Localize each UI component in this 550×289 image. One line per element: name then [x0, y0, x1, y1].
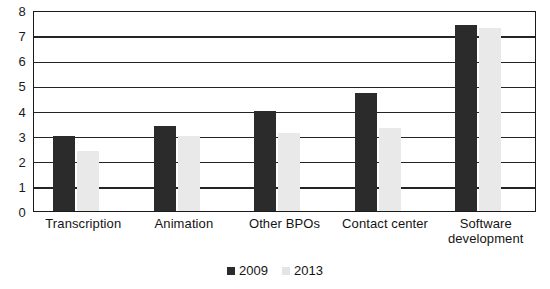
bar-2013	[178, 136, 200, 211]
bars-layer	[34, 12, 535, 211]
dark-square-marker-icon	[227, 267, 235, 275]
y-axis-tick-label: 8	[19, 5, 26, 18]
y-axis-tick-label: 0	[19, 206, 26, 219]
x-axis-tick-label: Animation	[134, 216, 235, 231]
y-axis: 012345678	[0, 0, 30, 222]
y-axis-tick-label: 2	[19, 155, 26, 168]
plot-area	[33, 11, 536, 212]
chart-legend: 20092013	[0, 264, 550, 278]
bar-2009	[154, 126, 176, 211]
x-axis-tick-label: Softwaredevelopment	[435, 216, 536, 246]
x-axis-tick-label-line: Animation	[134, 216, 235, 231]
x-axis-tick-label-line: Contact center	[335, 216, 436, 231]
bar-group	[135, 12, 236, 211]
x-axis-tick-label-line: Transcription	[33, 216, 134, 231]
y-axis-tick-label: 7	[19, 30, 26, 43]
bar-2013	[479, 28, 501, 211]
x-axis-tick-label: Contact center	[335, 216, 436, 231]
legend-label: 2013	[294, 264, 323, 278]
bar-2009	[355, 93, 377, 211]
y-axis-tick-label: 5	[19, 80, 26, 93]
x-axis-tick-label: Transcription	[33, 216, 134, 231]
bar-2013	[379, 128, 401, 211]
legend-item-2009[interactable]: 2009	[227, 264, 268, 278]
light-square-marker-icon	[282, 267, 290, 275]
bar-chart-figure: 012345678 TranscriptionAnimationOther BP…	[0, 0, 550, 289]
x-axis-tick-label-line: development	[435, 231, 536, 246]
bar-group	[336, 12, 437, 211]
y-axis-tick-label: 4	[19, 105, 26, 118]
bar-2009	[455, 25, 477, 211]
legend-item-2013[interactable]: 2013	[282, 264, 323, 278]
bar-group	[436, 12, 537, 211]
bar-group	[34, 12, 135, 211]
x-axis-category-labels: TranscriptionAnimationOther BPOsContact …	[33, 216, 536, 262]
bar-group	[235, 12, 336, 211]
bar-2013	[77, 151, 99, 211]
legend-label: 2009	[239, 264, 268, 278]
x-axis-tick-label-line: Software	[435, 216, 536, 231]
y-axis-tick-label: 6	[19, 55, 26, 68]
x-axis-tick-label: Other BPOs	[234, 216, 335, 231]
bar-2013	[278, 133, 300, 211]
y-axis-tick-label: 1	[19, 180, 26, 193]
bar-2009	[254, 111, 276, 212]
y-axis-tick-label: 3	[19, 130, 26, 143]
x-axis-tick-label-line: Other BPOs	[234, 216, 335, 231]
bar-2009	[53, 136, 75, 211]
